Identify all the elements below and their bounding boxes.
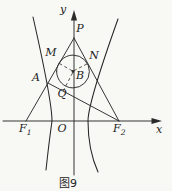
label-point-a: A xyxy=(31,71,40,84)
dashed-radius-b-m xyxy=(59,63,72,70)
label-x-axis: x xyxy=(156,123,163,136)
y-axis-arrow-icon xyxy=(71,10,77,21)
label-point-m: M xyxy=(44,46,57,59)
label-f2-letter: F xyxy=(112,122,121,135)
label-point-p: P xyxy=(75,22,84,35)
label-focus-f2: F2 xyxy=(112,122,126,137)
label-focus-f1: F1 xyxy=(18,122,31,137)
label-point-n: N xyxy=(88,49,99,62)
label-f2-subscript: 2 xyxy=(120,128,126,137)
label-point-b: B xyxy=(75,69,84,82)
label-f1-letter: F xyxy=(18,122,27,135)
label-y-axis: y xyxy=(59,3,67,16)
label-point-q: Q xyxy=(57,87,66,100)
label-origin: O xyxy=(57,122,66,135)
hyperbola-left-branch xyxy=(33,17,52,170)
label-f1-subscript: 1 xyxy=(27,128,32,137)
figure-caption: 图9 xyxy=(59,177,78,190)
math-figure: y x O P M N A B Q F1 F2 图9 xyxy=(0,0,172,191)
hyperbola-right-branch xyxy=(88,19,118,172)
figure-canvas: y x O P M N A B Q F1 F2 图9 xyxy=(0,0,172,191)
